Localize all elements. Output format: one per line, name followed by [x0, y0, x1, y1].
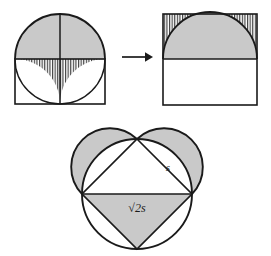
- left-panel: [15, 14, 105, 104]
- right-panel: [163, 12, 257, 105]
- side-label: s: [166, 161, 170, 173]
- bottom-panel: s √2s: [71, 128, 203, 249]
- diagonal-label: √2s: [128, 201, 146, 215]
- geometry-figure: s √2s: [0, 0, 271, 256]
- transformation-arrow: [122, 52, 153, 62]
- figure-canvas: s √2s: [0, 0, 271, 256]
- arrow-head-icon: [145, 52, 153, 62]
